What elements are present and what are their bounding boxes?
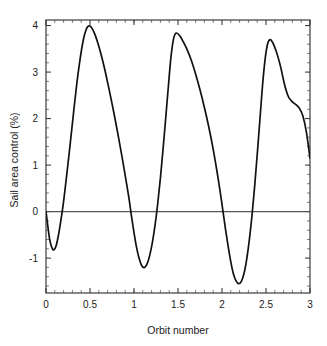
x-tick-label: 0 [43,299,49,310]
chart-background [0,0,327,346]
x-tick-label: 1.5 [171,299,185,310]
x-tick-label: 2.5 [259,299,273,310]
x-axis-title: Orbit number [147,324,209,336]
y-tick-label: 1 [32,160,38,171]
y-axis-title: Sail area control (%) [8,112,20,207]
y-tick-label: 2 [32,113,38,124]
y-tick-label: -1 [29,253,38,264]
y-tick-label: 0 [32,206,38,217]
x-tick-label: 0.5 [83,299,97,310]
line-chart-plot: 00.511.522.53 -101234 Orbit number Sail … [0,0,327,346]
x-tick-label: 2 [219,299,225,310]
x-tick-label: 3 [307,299,313,310]
x-axis-tick-labels: 00.511.522.53 [43,299,313,310]
x-tick-label: 1 [131,299,137,310]
y-tick-label: 4 [32,20,38,31]
y-tick-label: 3 [32,67,38,78]
chart-figure: 00.511.522.53 -101234 Orbit number Sail … [0,0,327,346]
